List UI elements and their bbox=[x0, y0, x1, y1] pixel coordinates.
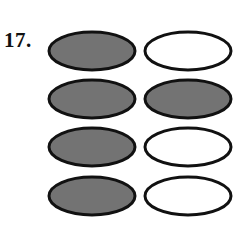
shaded-ellipse-shape bbox=[47, 174, 137, 218]
ellipse-row bbox=[0, 29, 250, 73]
ellipse-row bbox=[0, 125, 250, 169]
ellipse-row bbox=[0, 174, 250, 218]
ellipse-grid bbox=[0, 0, 250, 228]
unshaded-ellipse[interactable] bbox=[143, 125, 233, 169]
unshaded-ellipse[interactable] bbox=[143, 174, 233, 218]
shaded-ellipse[interactable] bbox=[47, 77, 137, 121]
shaded-ellipse-shape bbox=[47, 29, 137, 73]
shaded-ellipse-shape bbox=[143, 77, 233, 121]
worksheet-problem-figure: 17. bbox=[0, 0, 250, 228]
ellipse-row bbox=[0, 77, 250, 121]
unshaded-ellipse[interactable] bbox=[143, 29, 233, 73]
unshaded-ellipse-shape bbox=[143, 125, 233, 169]
shaded-ellipse[interactable] bbox=[47, 174, 137, 218]
shaded-ellipse[interactable] bbox=[47, 125, 137, 169]
shaded-ellipse-shape bbox=[47, 77, 137, 121]
shaded-ellipse[interactable] bbox=[47, 29, 137, 73]
shaded-ellipse[interactable] bbox=[143, 77, 233, 121]
shaded-ellipse-shape bbox=[47, 125, 137, 169]
unshaded-ellipse-shape bbox=[143, 29, 233, 73]
unshaded-ellipse-shape bbox=[143, 174, 233, 218]
